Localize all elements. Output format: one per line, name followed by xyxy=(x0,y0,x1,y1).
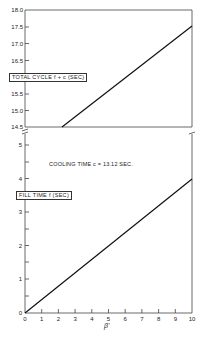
tick-label: 8 xyxy=(157,316,161,322)
lower-y-ticks xyxy=(25,145,29,296)
chart: 18.0 17.5 17.0 16.5 15.5 15.0 14.5 5 4 3… xyxy=(0,0,203,340)
tick-label: 4 xyxy=(19,176,23,182)
tick-label: 2 xyxy=(57,316,61,322)
x-axis-label: β' xyxy=(104,322,109,329)
lower-ylabel-box: FILL TIME f (SEC) xyxy=(16,191,72,200)
tick-label: 2 xyxy=(19,243,23,249)
tick-label: 6 xyxy=(124,316,128,322)
tick-label: 18.0 xyxy=(11,7,23,13)
upper-ylabel-box: TOTAL CYCLE f + c (SEC) xyxy=(9,73,87,82)
tick-label: 15.0 xyxy=(11,108,23,114)
tick-label: 15.5 xyxy=(11,91,23,97)
tick-label: 14.5 xyxy=(11,124,23,130)
tick-label: 17.5 xyxy=(11,24,23,30)
tick-label: 7 xyxy=(140,316,144,322)
cooling-time-annotation: COOLING TIME c = 13.12 SEC. xyxy=(49,161,133,167)
tick-label: 3 xyxy=(73,316,77,322)
upper-panel xyxy=(25,10,192,127)
tick-label: 17.0 xyxy=(11,41,23,47)
tick-label: 1 xyxy=(40,316,44,322)
tick-label: 9 xyxy=(174,316,178,322)
tick-label: 0 xyxy=(23,316,27,322)
lower-tick-labels: 5 4 3 2 1 0 xyxy=(19,142,23,316)
tick-label: 16.5 xyxy=(11,58,23,64)
upper-ticks xyxy=(25,27,29,111)
tick-label: 10 xyxy=(189,316,196,322)
tick-label: 1 xyxy=(19,276,23,282)
tick-label: 0 xyxy=(19,310,23,316)
tick-label: 5 xyxy=(19,142,23,148)
upper-tick-labels: 18.0 17.5 17.0 16.5 15.5 15.0 14.5 xyxy=(11,7,23,130)
x-ticks xyxy=(42,309,176,313)
tick-label: 4 xyxy=(90,316,94,322)
tick-label: 3 xyxy=(19,209,23,215)
x-tick-labels: 0 1 2 3 4 5 6 7 8 9 10 xyxy=(23,316,196,322)
axis-break-right xyxy=(189,132,195,134)
